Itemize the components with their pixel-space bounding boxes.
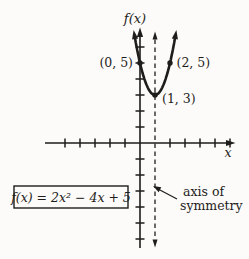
parabola-left-arrow-icon [132,30,138,39]
point-label-1-3: (1, 3) [162,91,196,106]
equation-text: f(x) = 2x² − 4x + 5 [10,190,131,205]
point-label-0-5: (0, 5) [99,55,133,70]
x-axis-label: x [224,145,231,160]
point-dot [167,60,172,65]
point-dot [137,60,142,65]
y-axis-label: f(x) [123,11,146,26]
parabola-right-arrow-icon [172,30,178,39]
graph-canvas: f(x) x (0, 5) (2, 5) (1, 3) f(x) = 2x² −… [0,0,249,259]
annotation-arrow-line [159,190,177,200]
axis-of-symmetry-label-line1: axis of [183,184,225,199]
annotation-arrow-icon [153,186,161,192]
parabola-figure: f(x) x (0, 5) (2, 5) (1, 3) f(x) = 2x² −… [0,0,249,259]
symmetry-bottom-arrow-icon [153,240,158,248]
axis-of-symmetry-label-line2: symmetry [180,198,244,213]
point-dot [152,92,157,97]
point-label-2-5: (2, 5) [177,55,211,70]
y-axis-arrow-icon [137,28,143,38]
axis-of-symmetry-line [153,32,158,248]
symmetry-top-arrow-icon [153,32,158,40]
